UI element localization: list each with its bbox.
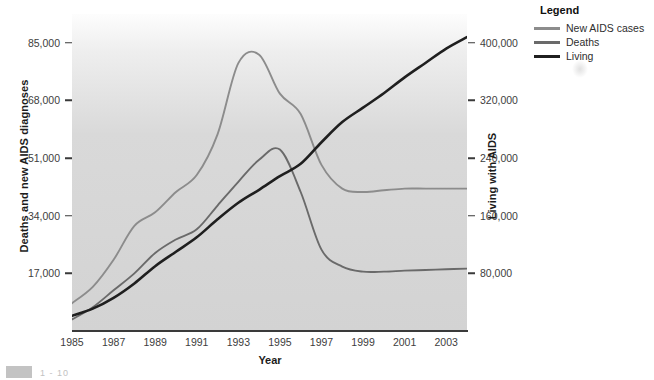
y-axis-right-tick-mark (468, 273, 475, 275)
x-axis-tick-label: 1987 (102, 336, 125, 348)
y-axis-left-tick-label: 51,000 (28, 152, 60, 164)
y-axis-right-title: Living with AIDS (486, 76, 498, 276)
x-axis-tick-label: 1991 (185, 336, 208, 348)
x-axis-tick-label: 2001 (393, 336, 416, 348)
y-axis-right-tick-mark (468, 157, 475, 159)
legend-item: Deaths (534, 35, 654, 49)
y-axis-right-tick-mark (468, 42, 475, 44)
x-axis-tick-label: 1999 (351, 336, 374, 348)
y-axis-right-tick-mark (468, 100, 475, 102)
y-axis-left-title: Deaths and new AIDS diagnoses (18, 46, 30, 286)
x-axis-tick-label: 2003 (435, 336, 458, 348)
legend-items: New AIDS casesDeathsLiving (534, 21, 654, 63)
plot-lines-svg (72, 14, 467, 331)
scan-smudge (572, 60, 588, 78)
series-line-living (72, 37, 467, 316)
series-line-new-aids-cases (72, 52, 467, 304)
legend-line-swatch-icon (534, 55, 560, 58)
x-axis-line (72, 330, 468, 332)
legend-line-swatch-icon (534, 41, 560, 44)
y-axis-left-tick-mark (65, 273, 72, 275)
y-axis-left-tick-label: 34,000 (28, 210, 60, 222)
y-axis-left-tick-mark (65, 157, 72, 159)
legend-item-label: Deaths (566, 36, 599, 48)
x-axis-tick-label: 1993 (227, 336, 250, 348)
y-axis-left-tick-label: 85,000 (28, 37, 60, 49)
scan-artifact (6, 366, 32, 378)
legend-item: New AIDS cases (534, 21, 654, 35)
y-axis-left-tick-label: 17,000 (28, 267, 60, 279)
y-axis-right-tick-mark (468, 215, 475, 217)
y-axis-left-tick-mark (65, 215, 72, 217)
footer-mark: 1 - 10 (40, 368, 69, 378)
y-axis-right-tick-label: 400,000 (480, 37, 518, 49)
legend-line-swatch-icon (534, 27, 560, 30)
y-axis-left-tick-label: 68,000 (28, 94, 60, 106)
x-axis-tick-label: 1997 (310, 336, 333, 348)
x-axis-tick-label: 1995 (268, 336, 291, 348)
x-axis-title: Year (72, 354, 468, 366)
aids-statistics-line-chart: 17,00034,00051,00068,00085,000 Deaths an… (0, 0, 654, 380)
legend-item-label: New AIDS cases (566, 22, 644, 34)
series-line-deaths (72, 148, 467, 319)
legend-title: Legend (540, 4, 654, 16)
x-axis-tick-label: 1989 (143, 336, 166, 348)
legend-item: Living (534, 49, 654, 63)
x-axis-tick-label: 1985 (60, 336, 83, 348)
y-axis-left-tick-mark (65, 100, 72, 102)
plot-area (72, 14, 467, 331)
legend: Legend New AIDS casesDeathsLiving (534, 4, 654, 63)
y-axis-left-tick-mark (65, 42, 72, 44)
